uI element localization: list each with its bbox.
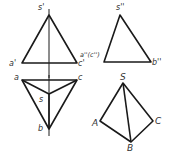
label-c-prime: c' — [78, 60, 85, 68]
label-S: S — [120, 73, 126, 82]
projection-drawing — [0, 0, 175, 158]
label-c: c — [78, 74, 82, 82]
isometric-view — [100, 83, 153, 142]
label-B: B — [127, 144, 133, 153]
label-a-c-double-prime: a''(c'') — [80, 52, 100, 59]
front-view — [22, 9, 77, 78]
label-A: A — [92, 119, 98, 128]
top-view — [22, 75, 77, 136]
label-s-prime: s' — [38, 4, 44, 12]
label-a-prime: a' — [9, 60, 16, 68]
label-s-double-prime: s'' — [116, 4, 125, 12]
label-b: b — [38, 125, 43, 133]
label-s: s — [39, 96, 43, 104]
label-b-double-prime: b'' — [152, 59, 161, 67]
side-view — [104, 15, 151, 62]
label-a: a — [14, 74, 19, 82]
label-C: C — [155, 117, 161, 126]
